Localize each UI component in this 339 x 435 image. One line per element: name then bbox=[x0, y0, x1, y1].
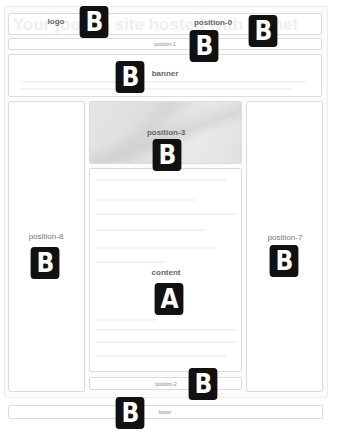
position-1-label: position-1 bbox=[154, 41, 176, 47]
position-3-label: position-3 bbox=[147, 128, 185, 137]
badge-position-1: B bbox=[190, 30, 219, 62]
badge-logo: B bbox=[80, 6, 109, 38]
badge-position-3: B bbox=[153, 139, 182, 171]
position-2-label: position-2 bbox=[155, 381, 177, 387]
badge-position-2: B bbox=[189, 368, 218, 400]
badge-position-0: B bbox=[249, 15, 278, 47]
badge-position-8: B bbox=[31, 247, 60, 279]
badge-position-7: B bbox=[270, 245, 299, 277]
logo-label: logo bbox=[48, 17, 65, 26]
badge-banner: B bbox=[116, 61, 145, 93]
position-7-label: position-7 bbox=[268, 233, 303, 242]
content-label: content bbox=[152, 268, 181, 277]
badge-content: A bbox=[155, 283, 184, 315]
banner-label: banner bbox=[152, 69, 179, 78]
position-0-label: position-0 bbox=[194, 18, 232, 27]
footer-label: footer bbox=[159, 409, 172, 415]
position-8-label: position-8 bbox=[29, 232, 64, 241]
badge-footer: B bbox=[116, 397, 145, 429]
